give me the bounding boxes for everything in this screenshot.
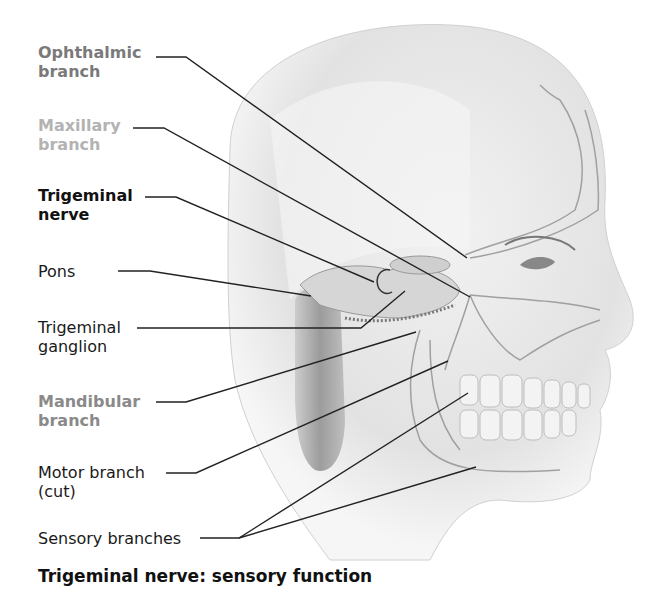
brainstem [295,286,345,471]
trigeminal-nerve-diagram: Ophthalmic branch Maxillary branch Trige… [0,0,661,593]
label-maxillary-branch: Maxillary branch [38,116,121,154]
figure-title: Trigeminal nerve: sensory function [38,566,372,586]
label-mandibular-branch: Mandibular branch [38,392,140,430]
label-motor-branch: Motor branch (cut) [38,463,145,501]
label-ophthalmic-branch: Ophthalmic branch [38,43,141,81]
lower-teeth [460,410,576,440]
head-illustration [0,0,661,593]
label-trigeminal-nerve: Trigeminal nerve [38,186,133,224]
label-trigeminal-ganglion: Trigeminal ganglion [38,318,121,356]
label-sensory-branches: Sensory branches [38,529,181,548]
label-pons: Pons [38,262,75,281]
